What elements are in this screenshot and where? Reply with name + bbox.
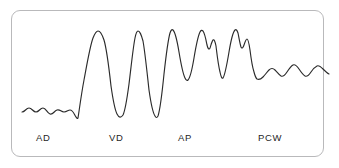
pressure-waveform-chart: [0, 0, 339, 168]
phase-label-vd: VD: [109, 132, 123, 143]
phase-label-ad: AD: [36, 132, 50, 143]
phase-label-ap: AP: [178, 132, 192, 143]
pressure-trace-line: [22, 30, 329, 119]
phase-label-pcw: PCW: [258, 132, 282, 143]
